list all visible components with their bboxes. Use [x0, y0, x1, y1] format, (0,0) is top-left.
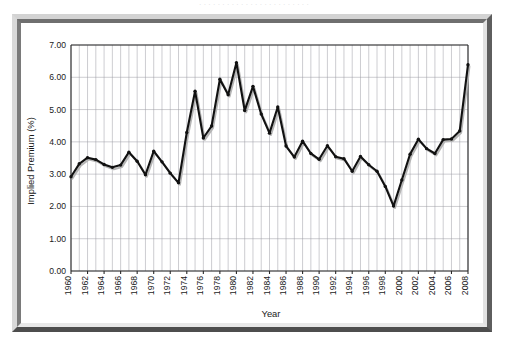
series-marker: [127, 150, 130, 153]
x-tick-label: 1998: [377, 276, 387, 295]
x-tick-label: 1990: [311, 276, 321, 295]
series-marker: [69, 175, 72, 178]
series-marker: [417, 138, 420, 141]
x-tick-label: 1996: [361, 276, 371, 295]
implied-premium-line-chart: 0.001.002.003.004.005.006.007.00 1960196…: [21, 23, 483, 323]
series-marker: [102, 163, 105, 166]
y-tick-label: 2.00: [49, 201, 66, 211]
series-marker: [293, 155, 296, 158]
series-marker: [152, 150, 155, 153]
x-tick-label: 1968: [129, 276, 139, 295]
x-tick-label: 2006: [443, 276, 453, 295]
y-axis-title: Implied Premium (%): [25, 117, 36, 205]
series-marker: [235, 61, 238, 64]
y-tick-label: 4.00: [49, 137, 66, 147]
series-marker: [169, 171, 172, 174]
x-tick-label: 1966: [113, 276, 123, 295]
series-marker: [367, 163, 370, 166]
series-marker: [86, 156, 89, 159]
series-marker: [160, 160, 163, 163]
series-marker: [226, 93, 229, 96]
figure-frame-inner-bevel: 0.001.002.003.004.005.006.007.00 1960196…: [17, 19, 487, 327]
series-marker: [268, 131, 271, 134]
y-tick-label: 1.00: [49, 234, 66, 244]
series-marker: [111, 166, 114, 169]
y-tick-label: 5.00: [49, 105, 66, 115]
series-marker: [359, 155, 362, 158]
x-tick-label: 1982: [245, 276, 255, 295]
x-tick-label: 1960: [63, 276, 73, 295]
x-tick-label: 1986: [278, 276, 288, 295]
x-tick-label: 1974: [179, 276, 189, 295]
series-marker: [408, 152, 411, 155]
series-marker: [78, 162, 81, 165]
series-marker: [177, 181, 180, 184]
series-marker: [326, 144, 329, 147]
x-tick-label: 2008: [460, 276, 470, 295]
series-marker: [425, 147, 428, 150]
x-tick-label: 1970: [146, 276, 156, 295]
x-tick-label: 1978: [212, 276, 222, 295]
series-marker: [144, 173, 147, 176]
x-tick-label: 1962: [80, 276, 90, 295]
x-tick-labels: 1960196219641966196819701972197419761978…: [63, 276, 470, 295]
series-marker: [466, 63, 469, 66]
series-marker: [185, 131, 188, 134]
x-tick-label: 1976: [195, 276, 205, 295]
series-marker: [317, 158, 320, 161]
y-tick-label: 7.00: [49, 40, 66, 50]
series-marker: [135, 160, 138, 163]
series-marker: [243, 109, 246, 112]
series-marker: [251, 85, 254, 88]
x-tick-label: 1980: [228, 276, 238, 295]
series-marker: [218, 78, 221, 81]
series-marker: [392, 204, 395, 207]
series-marker: [284, 144, 287, 147]
x-tick-label: 1994: [344, 276, 354, 295]
series-marker: [351, 170, 354, 173]
series-marker: [441, 138, 444, 141]
series-marker: [210, 124, 213, 127]
x-tick-label: 2004: [427, 276, 437, 295]
y-tick-label: 6.00: [49, 72, 66, 82]
series-marker: [119, 163, 122, 166]
series-marker: [94, 158, 97, 161]
series-marker: [375, 170, 378, 173]
x-tick-label: 1984: [262, 276, 272, 295]
series-line-shadow: [72, 65, 469, 208]
x-tick-label: 1992: [328, 276, 338, 295]
series-marker: [384, 185, 387, 188]
series-marker: [276, 105, 279, 108]
y-tick-label: 3.00: [49, 169, 66, 179]
cropped-caption-sliver: · · · · · · · · · · · · · · · · · · · · …: [0, 0, 508, 9]
series-marker: [342, 157, 345, 160]
series-marker: [202, 136, 205, 139]
series-marker: [433, 152, 436, 155]
series-marker: [193, 89, 196, 92]
x-axis-title: Year: [262, 308, 281, 319]
series-marker: [334, 155, 337, 158]
x-tick-label: 1964: [96, 276, 106, 295]
figure-frame: 0.001.002.003.004.005.006.007.00 1960196…: [12, 14, 492, 332]
series-marker: [458, 129, 461, 132]
series-marker: [301, 140, 304, 143]
x-tick-label: 2000: [394, 276, 404, 295]
y-tick-label: 0.00: [49, 266, 66, 276]
x-tick-label: 2002: [410, 276, 420, 295]
series-marker: [450, 137, 453, 140]
series-marker: [400, 178, 403, 181]
x-tick-label: 1972: [162, 276, 172, 295]
y-tick-labels: 0.001.002.003.004.005.006.007.00: [49, 40, 66, 276]
series-marker: [309, 152, 312, 155]
chart-canvas: 0.001.002.003.004.005.006.007.00 1960196…: [21, 23, 483, 323]
x-tick-label: 1988: [295, 276, 305, 295]
series-marker: [260, 112, 263, 115]
